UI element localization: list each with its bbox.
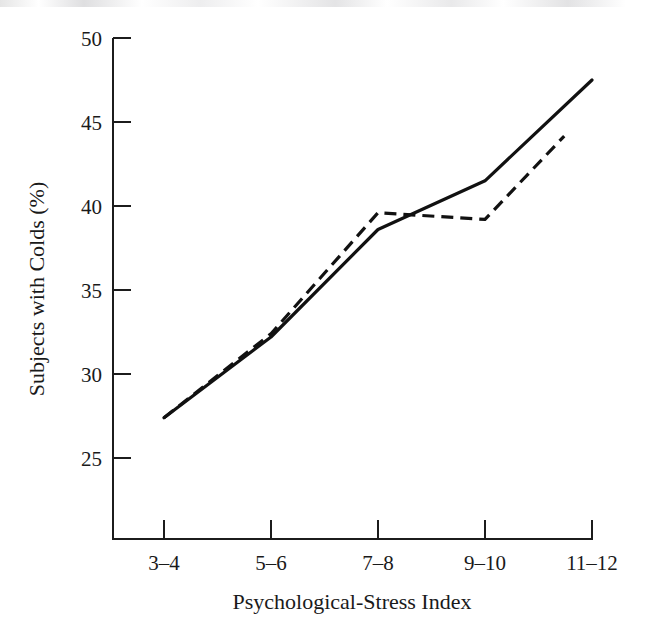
x-tick-label-11-12: 11–12 <box>566 551 618 575</box>
y-tick-label-45: 45 <box>81 111 102 135</box>
figure-container: 50 45 40 35 30 25 3–4 5–6 7–8 9–10 11–12 <box>0 0 645 627</box>
y-tick-label-25: 25 <box>81 447 102 471</box>
x-tick-label-7-8: 7–8 <box>362 551 394 575</box>
y-tick-label-40: 40 <box>81 195 102 219</box>
y-axis-ticks <box>113 38 131 458</box>
y-tick-label-30: 30 <box>81 363 102 387</box>
y-axis-title: Subjects with Colds (%) <box>24 182 49 397</box>
series-line-dashed <box>164 136 564 418</box>
x-axis-tick-labels: 3–4 5–6 7–8 9–10 11–12 <box>148 551 618 575</box>
data-series-group <box>164 80 592 418</box>
y-tick-label-35: 35 <box>81 279 102 303</box>
x-tick-label-5-6: 5–6 <box>255 551 287 575</box>
axis-spines <box>113 38 593 540</box>
y-axis-tick-labels: 50 45 40 35 30 25 <box>81 27 102 471</box>
x-tick-label-9-10: 9–10 <box>464 551 506 575</box>
x-axis-title: Psychological-Stress Index <box>233 589 472 614</box>
line-chart: 50 45 40 35 30 25 3–4 5–6 7–8 9–10 11–12 <box>0 0 645 627</box>
x-axis-ticks <box>164 520 592 538</box>
y-tick-label-50: 50 <box>81 27 102 51</box>
x-tick-label-3-4: 3–4 <box>148 551 180 575</box>
